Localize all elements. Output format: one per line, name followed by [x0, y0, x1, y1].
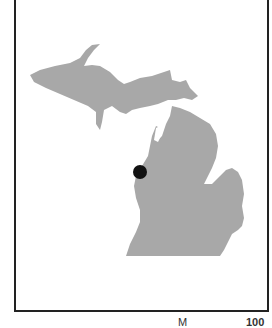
michigan-map: [0, 0, 272, 328]
caption-left: M: [178, 316, 187, 328]
location-marker[interactable]: [133, 165, 147, 179]
caption-right: 100: [246, 316, 264, 328]
lower-peninsula: [126, 106, 244, 256]
